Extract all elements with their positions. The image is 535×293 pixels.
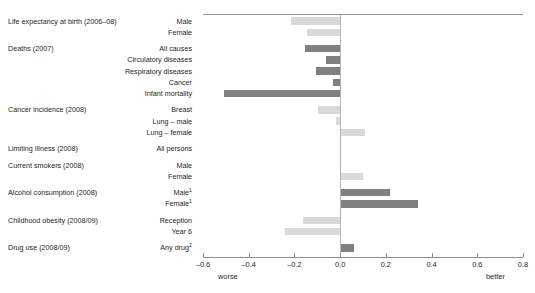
series-label: Respiratory diseases [80, 66, 192, 77]
series-label: Breast [80, 104, 192, 115]
x-axis-tick-label: 0.4 [415, 260, 449, 269]
group-label: Limiting Illness (2008) [8, 143, 78, 154]
series-label: All persons [80, 143, 192, 154]
zero-reference-line [340, 15, 341, 257]
x-axis-tick [477, 253, 478, 257]
group-label: Deaths (2007) [8, 43, 54, 54]
series-label: All causes [80, 43, 192, 54]
x-axis-tick-label: –0.4 [232, 260, 266, 269]
series-label: Female [80, 27, 192, 38]
series-label: Circulatory diseases [80, 54, 192, 65]
x-axis-tick [294, 253, 295, 257]
series-label-footnote: 1 [189, 187, 192, 193]
health-indicator-bar-chart: Life expectancy at birth (2006–08)MaleFe… [0, 0, 535, 293]
x-axis-line [203, 257, 523, 258]
x-axis-tick-label: –0.2 [277, 260, 311, 269]
x-axis-tick [432, 253, 433, 257]
x-axis-tick [523, 253, 524, 257]
x-axis-tick [203, 253, 204, 257]
series-label: Cancer [80, 77, 192, 88]
x-axis-tick-label: 0.0 [323, 260, 357, 269]
axis-end-label-worse: worse [218, 272, 238, 281]
series-label: Reception [80, 215, 192, 226]
plot-area [203, 14, 523, 257]
x-axis-tick-label: 0.2 [369, 260, 403, 269]
series-label-footnote: 2 [189, 242, 192, 248]
series-label: Male [80, 160, 192, 171]
series-label: Any drug2 [80, 242, 192, 253]
x-axis-tick [340, 253, 341, 257]
x-axis-tick-label: –0.6 [186, 260, 220, 269]
group-label: Current smokers (2008) [8, 160, 84, 171]
series-label: Year 6 [80, 226, 192, 237]
series-label: Infant mortality [80, 88, 192, 99]
series-label: Lung – male [80, 116, 192, 127]
series-label: Female1 [80, 198, 192, 209]
x-axis-tick-label: 0.8 [506, 260, 535, 269]
series-label: Male1 [80, 187, 192, 198]
group-label: Cancer incidence (2008) [8, 104, 86, 115]
x-axis-tick [386, 253, 387, 257]
axis-end-label-better: better [486, 272, 505, 281]
x-axis-tick [249, 253, 250, 257]
series-label: Female [80, 171, 192, 182]
series-label: Male [80, 16, 192, 27]
series-label: Lung – female [80, 127, 192, 138]
series-label-footnote: 1 [189, 198, 192, 204]
x-axis-tick-label: 0.6 [460, 260, 494, 269]
group-label: Drug use (2008/09) [8, 242, 70, 253]
